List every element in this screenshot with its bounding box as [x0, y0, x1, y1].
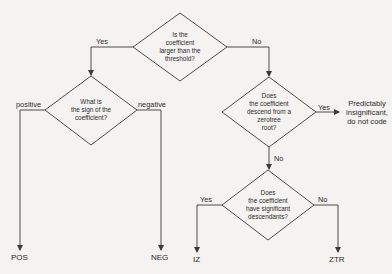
edge-label-positive: positive: [16, 101, 41, 108]
outcome-neg: NEG: [151, 254, 168, 262]
edge-d4-yes: [197, 205, 222, 252]
decision-descendants-text: Does the coefficient have significant de…: [226, 189, 310, 221]
edge-label-d1-yes: Yes: [96, 38, 108, 45]
edge-d1-no: [227, 47, 269, 76]
edge-label-d4-no: No: [318, 196, 327, 203]
edge-d1-yes: [91, 47, 133, 75]
edge-d2-positive: [20, 110, 45, 250]
decision-threshold-text: Is the coefficient larger than the thres…: [138, 31, 222, 63]
edge-label-negative: negative: [138, 101, 166, 108]
edge-d4-no: [314, 205, 338, 252]
outcome-iz: IZ: [193, 256, 200, 264]
edge-label-d3-yes: Yes: [318, 104, 330, 111]
decision-sign-text: What is the sign of the coefficient?: [50, 98, 132, 122]
edge-label-d4-yes: Yes: [200, 196, 212, 203]
outcome-predictably-insignificant: Predictably insignificant, do not code: [340, 99, 392, 126]
edge-label-d3-no: No: [274, 155, 283, 162]
outcome-pos: POS: [11, 254, 28, 262]
edge-label-d1-no: No: [252, 38, 261, 45]
decision-zerotree-text: Does the coefficient descend from a zero…: [227, 92, 311, 132]
edge-d2-negative: [137, 110, 161, 250]
outcome-ztr: ZTR: [329, 256, 345, 264]
